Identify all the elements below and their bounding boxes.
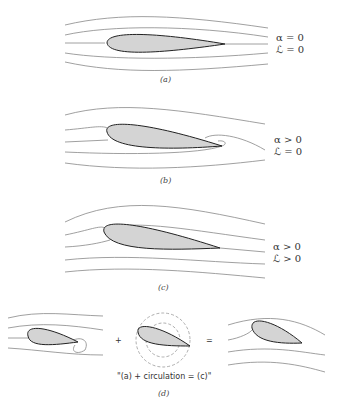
airfoil-d-left <box>28 328 78 344</box>
airfoil-a <box>107 34 225 52</box>
plus-sign: + <box>115 336 122 345</box>
caption-d: (d) <box>158 389 169 398</box>
alpha-label-c: α > 0 <box>273 241 301 252</box>
airfoil-d-center <box>138 326 190 346</box>
equals-sign: = <box>206 336 213 345</box>
airfoil-b <box>107 124 222 148</box>
airfoil-c <box>104 224 220 249</box>
airfoil-flow-diagram <box>0 0 340 410</box>
alpha-label-b: α > 0 <box>274 134 302 145</box>
lift-label-b: ℒ = 0 <box>274 146 302 157</box>
alpha-label-a: α = 0 <box>276 32 304 43</box>
caption-c: (c) <box>158 283 169 292</box>
equation-text: "(a) + circulation = (c)" <box>117 372 211 381</box>
lift-label-a: ℒ = 0 <box>276 44 304 55</box>
caption-b: (b) <box>160 176 171 185</box>
caption-a: (a) <box>160 75 171 84</box>
airfoil-d-right <box>252 321 302 343</box>
lift-label-c: ℒ > 0 <box>273 253 301 264</box>
